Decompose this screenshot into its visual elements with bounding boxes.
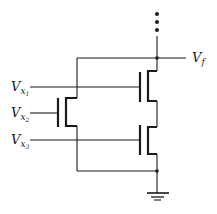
input1-label: Vx1 (11, 79, 29, 97)
input2-label: Vx2 (11, 105, 29, 123)
ground-icon (147, 171, 169, 200)
transistor-1 (140, 71, 157, 102)
t2-channel (66, 98, 77, 126)
output-label: Vf (192, 50, 206, 67)
continuation-dots (155, 12, 159, 32)
transistor-2 (58, 98, 77, 127)
t3-channel (148, 127, 157, 154)
input3-label: Vx3 (11, 132, 29, 150)
circuit-diagram: Vx1 Vx2 Vx3 Vf (0, 0, 217, 214)
transistor-3 (140, 125, 157, 155)
t1-channel (148, 71, 157, 101)
